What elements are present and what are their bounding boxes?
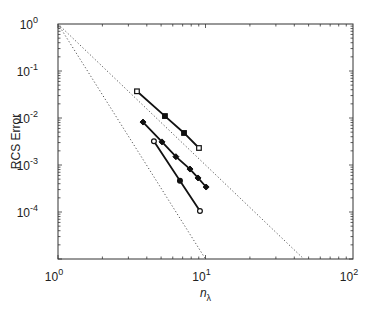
square-marker	[135, 89, 140, 94]
circle-marker	[198, 209, 203, 214]
series-line-circles	[154, 141, 200, 211]
x-tick-label: 101	[192, 267, 210, 284]
square-marker	[163, 114, 168, 119]
square-marker	[197, 146, 202, 151]
x-tick-label: 100	[45, 267, 63, 284]
reference-line	[58, 24, 304, 259]
y-tick-label: 10-4	[17, 203, 38, 220]
convergence-chart: 10010110210010-110-210-310-4nλRCS Error	[0, 0, 380, 313]
chart-canvas: 10010110210010-110-210-310-4nλRCS Error	[0, 0, 380, 313]
square-marker	[182, 131, 187, 136]
y-axis-label: RCS Error	[9, 114, 23, 169]
x-tick-label: 102	[340, 267, 358, 284]
y-tick-label: 10-1	[17, 62, 38, 79]
x-axis-label: nλ	[200, 286, 212, 303]
y-tick-label: 100	[20, 15, 38, 32]
circle-marker	[178, 178, 183, 183]
reference-line	[58, 24, 206, 259]
circle-marker	[152, 139, 157, 144]
plot-frame	[58, 24, 353, 259]
series-line-squares	[137, 91, 199, 148]
